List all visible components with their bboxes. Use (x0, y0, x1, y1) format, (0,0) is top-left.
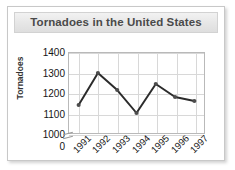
chart-figure: Tornadoes in the United States Tornadoes… (7, 6, 225, 161)
y-tick-label: 1200 (31, 88, 65, 99)
y-tick-label: 1400 (31, 47, 65, 58)
y-tick-label: 1300 (31, 67, 65, 78)
chart-plot-region: Tornadoes 010001100120013001400 19911992… (8, 35, 226, 162)
data-line (79, 73, 195, 113)
y-tick-label: 0 (31, 141, 65, 152)
x-axis-tick-labels: 1991199219931994199519961997 (68, 135, 205, 162)
data-point-marker (154, 82, 158, 86)
series-line-tornadoes (69, 53, 204, 133)
data-point-marker (173, 95, 177, 99)
data-point-marker (115, 88, 119, 92)
data-point-marker (192, 99, 196, 103)
chart-title-bar: Tornadoes in the United States (14, 12, 218, 33)
plot-area (68, 52, 205, 134)
data-point-marker (96, 71, 100, 75)
data-point-marker (134, 111, 138, 115)
y-axis-title: Tornadoes (15, 50, 29, 106)
y-axis-tick-labels: 010001100120013001400 (31, 43, 65, 147)
data-point-marker (77, 103, 81, 107)
y-tick-label: 1100 (31, 108, 65, 119)
page-title: Tornadoes in the United States (15, 13, 217, 32)
y-tick-label: 1000 (31, 129, 65, 140)
